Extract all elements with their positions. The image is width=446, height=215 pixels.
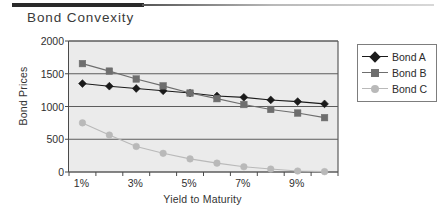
legend-key — [362, 50, 388, 64]
data-point — [214, 160, 221, 167]
series-bond-a — [79, 80, 329, 108]
x-axis-title: Yield to Maturity — [68, 193, 337, 205]
y-tick-label: 0 — [58, 166, 64, 178]
data-point — [105, 82, 113, 90]
page-title: Bond Convexity — [27, 10, 134, 25]
data-point — [214, 95, 221, 102]
series-bond-c — [79, 120, 328, 175]
chart-figure: Bond Prices 0500100015002000 1%3%5%7%9% … — [0, 30, 446, 215]
data-point — [321, 168, 328, 175]
legend-item-bond-a[interactable]: Bond A — [358, 49, 436, 65]
legend-marker-circle-icon — [371, 85, 379, 93]
data-point — [187, 156, 194, 163]
plot-area — [68, 41, 338, 172]
y-axis-tick-labels: 0500100015002000 — [30, 30, 64, 165]
series-line — [82, 64, 324, 118]
legend-label: Bond B — [388, 67, 426, 79]
chart-legend: Bond ABond BBond C — [357, 44, 437, 102]
data-point — [241, 163, 248, 170]
legend-marker-square-icon — [371, 69, 379, 77]
data-point — [267, 106, 274, 113]
x-tick-label: 3% — [128, 177, 143, 189]
x-tick-label: 7% — [235, 177, 250, 189]
y-tick-label: 500 — [46, 133, 64, 145]
data-point — [267, 96, 275, 104]
legend-label: Bond A — [388, 51, 426, 63]
legend-label: Bond C — [388, 83, 427, 95]
x-tick-label: 5% — [181, 177, 196, 189]
data-point — [79, 120, 86, 127]
legend-item-bond-c[interactable]: Bond C — [358, 81, 436, 97]
data-point — [133, 143, 140, 150]
y-tick-label: 1000 — [41, 101, 64, 113]
data-point — [160, 150, 167, 157]
data-point — [321, 114, 328, 121]
data-point — [106, 68, 113, 75]
data-point — [106, 132, 113, 139]
data-point — [267, 166, 274, 173]
data-point — [79, 60, 86, 67]
x-axis-tick-labels: 1%3%5%7%9% — [68, 176, 337, 192]
data-point — [132, 85, 140, 93]
y-tick-label: 2000 — [41, 35, 64, 47]
y-axis-title: Bond Prices — [17, 48, 29, 144]
y-tick-label: 1500 — [41, 68, 64, 80]
data-point — [187, 90, 194, 97]
data-point — [133, 76, 140, 83]
data-point — [294, 168, 301, 175]
legend-item-bond-b[interactable]: Bond B — [358, 65, 436, 81]
header-rule-thick — [12, 3, 144, 7]
plot-svg — [69, 41, 338, 172]
data-point — [79, 80, 87, 88]
data-point — [294, 110, 301, 117]
data-point — [240, 93, 248, 101]
page-header-rule — [12, 3, 434, 8]
legend-key — [362, 82, 388, 96]
x-tick-label: 1% — [74, 177, 89, 189]
legend-key — [362, 66, 388, 80]
data-point — [241, 101, 248, 108]
data-point — [160, 83, 167, 90]
data-point — [294, 98, 302, 106]
chart-page: Bond Convexity Bond Prices 0500100015002… — [0, 0, 446, 215]
series-line — [82, 123, 324, 172]
legend-marker-diamond-icon — [369, 51, 380, 62]
x-tick-label: 9% — [289, 177, 304, 189]
series-bond-b — [79, 60, 328, 121]
series-line — [82, 84, 324, 104]
header-rule-taper — [142, 4, 434, 6]
